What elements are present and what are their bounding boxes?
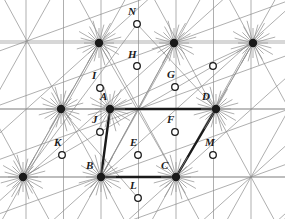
lattice-node-hollow <box>172 84 179 91</box>
lattice-node-hollow <box>97 85 104 92</box>
lattice-node-filled <box>172 173 180 181</box>
lattice-node-filled <box>170 39 178 47</box>
lattice-node-hollow <box>172 129 179 136</box>
lattice-node-filled <box>97 173 105 181</box>
lattice-node-filled <box>19 173 27 181</box>
lattice-node-filled <box>212 105 220 113</box>
lattice-node-hollow <box>59 152 66 159</box>
lattice-node-filled <box>249 39 257 47</box>
lattice-node-hollow <box>97 129 104 136</box>
lattice-node-hollow <box>210 63 217 70</box>
lattice-diagram <box>0 0 285 219</box>
lattice-node-filled <box>106 105 114 113</box>
lattice-node-filled <box>95 39 103 47</box>
lattice-figure: NHIGADJFKEMBCL <box>0 0 285 219</box>
lattice-node-hollow <box>135 195 142 202</box>
lattice-node-hollow <box>210 152 217 159</box>
lattice-node-hollow <box>134 63 141 70</box>
lattice-node-hollow <box>134 21 141 28</box>
lattice-node-hollow <box>135 152 142 159</box>
lattice-node-filled <box>57 105 65 113</box>
